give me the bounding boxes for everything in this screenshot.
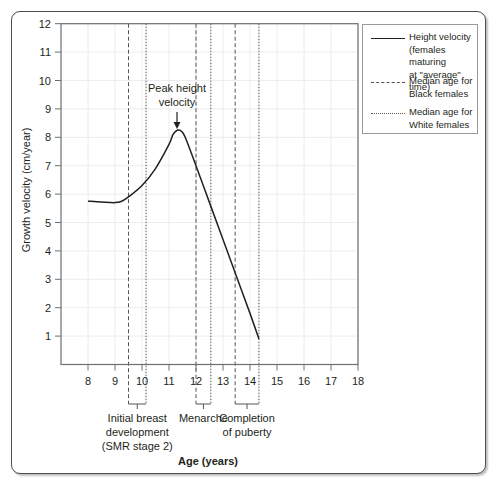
y-tick-label: 1: [45, 330, 51, 342]
y-tick-label: 2: [45, 302, 51, 314]
legend-text-line: White females: [409, 119, 479, 132]
event-label: Initial breast: [108, 412, 167, 424]
dotted-line-swatch: [371, 113, 405, 114]
x-tick-label: 8: [85, 375, 91, 387]
x-tick-label: 12: [190, 375, 202, 387]
x-tick-label: 17: [325, 375, 337, 387]
y-tick-label: 11: [40, 46, 51, 58]
peak-label-line2: velocity: [159, 96, 196, 108]
y-tick-label: 8: [45, 131, 51, 143]
y-tick-label: 7: [45, 160, 51, 172]
legend-text-line: Median age for: [409, 106, 479, 119]
dashed-line-swatch: [371, 82, 405, 83]
event-brackets: [129, 404, 259, 409]
event-label: Completion: [219, 412, 275, 424]
arrow-down-icon: [174, 122, 181, 129]
legend-text-line: Black females: [409, 88, 479, 101]
x-tick-label: 14: [244, 375, 256, 387]
x-tick-label: 10: [136, 375, 148, 387]
legend: Height velocity (females maturing at "av…: [362, 24, 478, 134]
y-tick-label: 12: [39, 18, 51, 30]
solid-line-swatch: [371, 38, 405, 39]
y-tick-label: 10: [39, 75, 51, 87]
y-tick-label: 5: [45, 217, 51, 229]
x-axis-title: Age (years): [178, 455, 238, 467]
x-tick-label: 15: [271, 375, 283, 387]
event-label: development: [106, 426, 169, 438]
x-tick-label: 18: [352, 375, 364, 387]
x-tick-label: 11: [163, 375, 174, 387]
y-tick-label: 6: [45, 188, 51, 200]
legend-text-line: (females maturing: [409, 44, 479, 69]
legend-text-line: Median age for: [409, 75, 479, 88]
peak-annotation: Peak height velocity: [148, 82, 206, 129]
y-tick-label: 9: [45, 103, 51, 115]
x-tick-label: 9: [112, 375, 118, 387]
event-labels: Initial breastdevelopment(SMR stage 2)Me…: [102, 412, 275, 452]
peak-label-line1: Peak height: [148, 82, 206, 94]
x-tick-label: 13: [217, 375, 229, 387]
legend-text-line: Height velocity: [409, 31, 479, 44]
event-label: (SMR stage 2): [102, 440, 173, 452]
x-tick-label: 16: [298, 375, 310, 387]
gridlines: [61, 24, 358, 365]
y-axis-title: Growth velocity (cm/year): [20, 128, 32, 253]
y-tick-label: 4: [45, 245, 51, 257]
event-label: of puberty: [223, 426, 272, 438]
y-tick-label: 3: [45, 273, 51, 285]
